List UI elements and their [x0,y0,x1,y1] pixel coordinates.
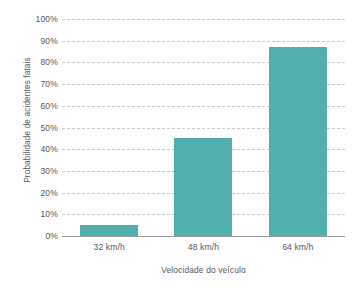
x-tick-label: 48 km/h [156,241,250,253]
y-tick-label: 30% [12,166,58,176]
y-tick-label: 10% [12,209,58,219]
x-axis-title: Velocidade do veículo [62,264,345,276]
x-tick-label: 32 km/h [62,241,156,253]
bar-32-kmh [80,225,138,236]
bar-64-kmh [269,47,327,236]
bar-48-kmh [174,138,232,236]
y-axis-tick-labels: 100% 90% 80% 70% 60% 50% 40% 30% 20% 10%… [8,19,58,236]
y-tick-label: 90% [12,36,58,46]
y-tick-label: 60% [12,101,58,111]
y-tick-label: 40% [12,144,58,154]
bar-chart: Probabilidade de acidentes fatais 100% 9… [0,0,364,286]
x-axis-tick-labels: 32 km/h 48 km/h 64 km/h [62,241,345,255]
y-tick-label: 80% [12,57,58,67]
y-tick-label: 0% [12,231,58,241]
y-tick-label: 50% [12,123,58,133]
bars-group [62,19,345,236]
x-axis-line [62,236,345,237]
y-tick-label: 20% [12,188,58,198]
x-tick-label: 64 km/h [251,241,345,253]
y-tick-label: 70% [12,79,58,89]
y-tick-label: 100% [12,14,58,24]
